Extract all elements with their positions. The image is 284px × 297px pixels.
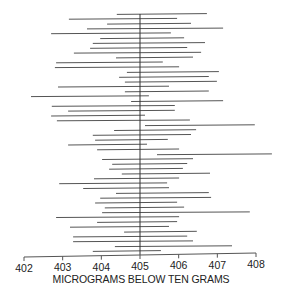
interval-line — [69, 18, 177, 19]
interval-line — [131, 101, 223, 102]
interval-line — [127, 72, 219, 73]
interval-line — [157, 154, 272, 155]
interval-line — [116, 57, 193, 58]
interval-line — [102, 159, 193, 160]
interval-line — [51, 33, 171, 34]
interval-line — [68, 110, 175, 111]
interval-line — [145, 125, 255, 126]
interval-line — [93, 135, 191, 136]
interval-line — [94, 178, 179, 179]
interval-line — [55, 67, 179, 68]
interval-line — [52, 106, 175, 107]
interval-line — [31, 96, 149, 97]
interval-line — [93, 251, 161, 252]
interval-line — [102, 212, 250, 213]
interval-line — [105, 207, 184, 208]
interval-line — [68, 144, 147, 145]
interval-line — [115, 246, 232, 247]
interval-line — [90, 48, 187, 49]
interval-line — [100, 38, 184, 39]
interval-line — [73, 241, 193, 242]
interval-line — [59, 183, 167, 184]
interval-line — [109, 168, 183, 169]
confidence-intervals — [31, 14, 272, 252]
x-tick-label: 405 — [131, 260, 149, 272]
x-tick-label: 402 — [15, 262, 33, 274]
x-tick-label: 403 — [54, 261, 72, 273]
interval-line — [87, 28, 223, 29]
x-tick-label: 408 — [247, 258, 265, 270]
interval-line — [51, 115, 145, 116]
interval-line — [125, 81, 217, 82]
x-tick-label: 407 — [209, 259, 227, 271]
interval-line — [70, 226, 169, 227]
x-tick-label: 406 — [170, 259, 188, 271]
interval-line — [117, 14, 207, 15]
interval-line — [95, 202, 177, 203]
interval-line — [74, 52, 201, 53]
interval-line — [100, 197, 211, 198]
interval-line — [112, 164, 187, 165]
interval-chart: 402403404405406407408 MICROGRAMS BELOW T… — [0, 0, 284, 297]
interval-line — [116, 193, 209, 194]
interval-line — [97, 149, 179, 150]
interval-line — [125, 91, 209, 92]
interval-line — [107, 23, 191, 24]
interval-line — [58, 86, 169, 87]
interval-line — [95, 139, 168, 140]
interval-line — [114, 130, 196, 131]
interval-line — [73, 236, 187, 237]
interval-line — [122, 173, 210, 174]
interval-line — [119, 77, 209, 78]
x-axis-title: MICROGRAMS BELOW TEN GRAMS — [53, 273, 230, 285]
interval-line — [83, 188, 169, 189]
x-tick-label: 404 — [93, 261, 111, 273]
interval-line — [93, 43, 205, 44]
interval-line — [56, 62, 163, 63]
interval-line — [56, 217, 179, 218]
interval-line — [97, 222, 177, 223]
interval-line — [57, 120, 190, 121]
interval-line — [124, 231, 197, 232]
